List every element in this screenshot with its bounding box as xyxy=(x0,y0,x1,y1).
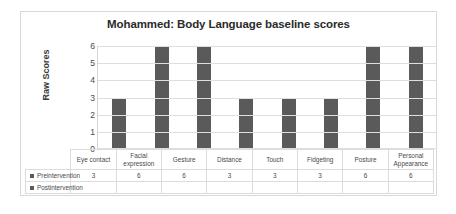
value-cell xyxy=(297,182,342,194)
table-corner-cell xyxy=(26,150,71,170)
table-row-preintervention: Preintervention 36633366 xyxy=(26,170,434,182)
chart-container: Mohammed: Body Language baseline scores … xyxy=(20,11,437,196)
value-cell: 6 xyxy=(343,170,388,182)
category-header-cell: Facial expression xyxy=(116,150,161,170)
value-cell xyxy=(207,182,252,194)
bar[interactable] xyxy=(239,98,253,150)
plot-canvas xyxy=(97,46,437,149)
table-row-postintervention: Postintervention xyxy=(26,182,434,194)
plot-area: 6543210 xyxy=(97,46,437,149)
gridline xyxy=(98,63,437,64)
value-cell xyxy=(252,182,297,194)
value-cell: 6 xyxy=(161,170,206,182)
value-cell: 6 xyxy=(388,170,433,182)
y-tick-label: 4 xyxy=(81,75,95,85)
gridline xyxy=(98,132,437,133)
category-header-cell: Posture xyxy=(343,150,388,170)
gridline xyxy=(98,46,437,47)
category-header-cell: Distance xyxy=(207,150,252,170)
legend-swatch-icon xyxy=(30,186,34,190)
legend-label-postintervention: Postintervention xyxy=(37,184,83,191)
chart-title: Mohammed: Body Language baseline scores xyxy=(21,18,436,30)
category-header-cell: Eye contact xyxy=(71,150,116,170)
y-tick-label: 6 xyxy=(81,41,95,51)
series-value-table: Eye contactFacial expressionGestureDista… xyxy=(25,149,434,194)
y-tick-label: 2 xyxy=(81,110,95,120)
legend-swatch-icon xyxy=(30,174,34,178)
value-cell xyxy=(343,182,388,194)
bar[interactable] xyxy=(282,98,296,150)
category-header-cell: Personal Appearance xyxy=(388,150,433,170)
value-cell: 3 xyxy=(297,170,342,182)
legend-label-preintervention: Preintervention xyxy=(37,172,80,179)
value-cell: 6 xyxy=(116,170,161,182)
value-cell: 3 xyxy=(207,170,252,182)
category-header-cell: Gesture xyxy=(161,150,206,170)
y-axis-title: Raw Scores xyxy=(41,45,51,105)
category-header-cell: Touch xyxy=(252,150,297,170)
bar[interactable] xyxy=(324,98,338,150)
value-cell xyxy=(161,182,206,194)
gridline xyxy=(98,80,437,81)
legend-item-preintervention[interactable]: Preintervention xyxy=(26,170,71,182)
table-row-categories: Eye contactFacial expressionGestureDista… xyxy=(26,150,434,170)
value-cell: 3 xyxy=(252,170,297,182)
y-tick-label: 3 xyxy=(81,93,95,103)
y-axis-ticks: 6543210 xyxy=(81,46,95,149)
y-tick-label: 5 xyxy=(81,58,95,68)
category-header-cell: Fidgeting xyxy=(297,150,342,170)
legend-item-postintervention[interactable]: Postintervention xyxy=(26,182,71,194)
y-tick-label: 1 xyxy=(81,127,95,137)
gridline xyxy=(98,98,437,99)
value-cell xyxy=(388,182,433,194)
gridline xyxy=(98,115,437,116)
bar[interactable] xyxy=(112,98,126,150)
data-table: Eye contactFacial expressionGestureDista… xyxy=(25,149,434,193)
value-cell xyxy=(116,182,161,194)
